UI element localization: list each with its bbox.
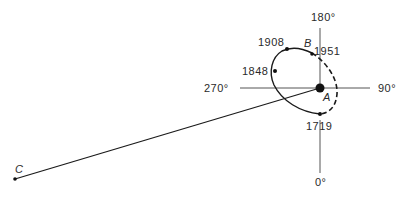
year-label-1951: 1951	[314, 46, 340, 57]
axis-label-90: 90°	[378, 83, 396, 94]
orbit-solid	[271, 48, 320, 114]
point-label-b: B	[304, 38, 312, 49]
axis-label-270: 270°	[204, 83, 229, 94]
year-label-1848: 1848	[242, 66, 268, 77]
point-label-c: C	[15, 164, 23, 175]
diagram-canvas	[0, 0, 410, 197]
point-1848-dot	[273, 69, 277, 73]
orbit-dashed	[312, 53, 337, 114]
point-1719-dot	[318, 112, 322, 116]
line-c-to-a	[15, 88, 320, 179]
year-label-1719: 1719	[306, 121, 332, 132]
axis-label-0: 0°	[315, 177, 327, 188]
point-c-dot	[13, 177, 17, 181]
year-label-1908: 1908	[258, 37, 284, 48]
point-label-a: A	[323, 92, 331, 103]
axis-label-180: 180°	[311, 12, 336, 23]
point-1908-dot	[285, 47, 289, 51]
